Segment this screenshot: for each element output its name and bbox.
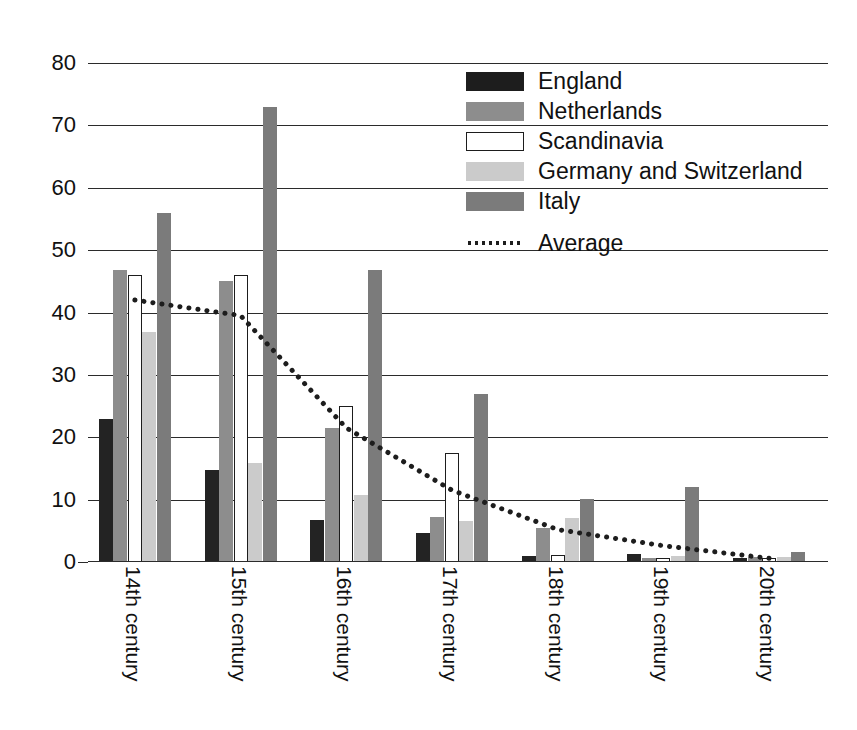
x-axis-labels: 14th century15th century16th century17th… [88,566,828,726]
bar [234,275,248,562]
legend-swatch-icon [466,192,524,211]
legend-swatch-average-icon [466,234,524,253]
bar [685,487,699,562]
bar [368,270,382,562]
y-tick-mark [78,562,88,563]
x-axis-label: 18th century [546,566,567,682]
bar [536,528,550,562]
legend-label: Germany and Switzerland [538,160,803,183]
legend-label: England [538,70,622,93]
legend-swatch-icon [466,132,524,151]
x-axis-label: 19th century [651,566,672,682]
y-tick-label: 40 [52,302,76,324]
legend-label: Italy [538,190,580,213]
bar [128,275,142,562]
legend-swatch-icon [466,72,524,91]
bar [157,213,171,562]
x-axis-label: 17th century [440,566,461,682]
bar [219,281,233,562]
y-tick-label: 0 [64,551,76,573]
legend-item: Germany and Switzerland [466,156,846,186]
legend-item-average: Average [466,228,846,258]
bar [416,533,430,562]
bar [339,406,353,562]
bar-group [194,63,300,562]
bar [205,470,219,562]
y-tick-label: 50 [52,239,76,261]
legend-item: England [466,66,846,96]
y-tick-label: 70 [52,114,76,136]
bar [325,428,339,562]
bar-group [88,63,194,562]
x-axis-label: 16th century [334,566,355,682]
x-axis-label: 14th century [123,566,144,682]
legend-label-average: Average [538,232,623,255]
bar [248,463,262,562]
bar [310,520,324,562]
y-tick-label: 10 [52,489,76,511]
y-tick-label: 20 [52,426,76,448]
bar [474,394,488,562]
x-axis-label: 15th century [229,566,250,682]
grouped-bar-chart: 01020304050607080 14th century15th centu… [0,0,857,730]
legend-swatch-icon [466,102,524,121]
legend-item: Italy [466,186,846,216]
y-tick-label: 80 [52,52,76,74]
bar [142,332,156,562]
bar [430,517,444,562]
bar [113,270,127,562]
bar [580,499,594,562]
bar [354,495,368,562]
legend-swatch-icon [466,162,524,181]
bar [459,521,473,562]
bar [263,107,277,562]
legend-item: Scandinavia [466,126,846,156]
bar-group [299,63,405,562]
chart-legend: EnglandNetherlandsScandinaviaGermany and… [466,66,846,258]
x-axis-baseline [88,561,828,562]
x-axis-label: 20th century [757,566,778,682]
bar [445,453,459,562]
y-tick-label: 60 [52,177,76,199]
legend-item: Netherlands [466,96,846,126]
legend-label: Scandinavia [538,130,663,153]
legend-label: Netherlands [538,100,662,123]
y-tick-label: 30 [52,364,76,386]
bar [99,419,113,562]
bar [565,518,579,562]
